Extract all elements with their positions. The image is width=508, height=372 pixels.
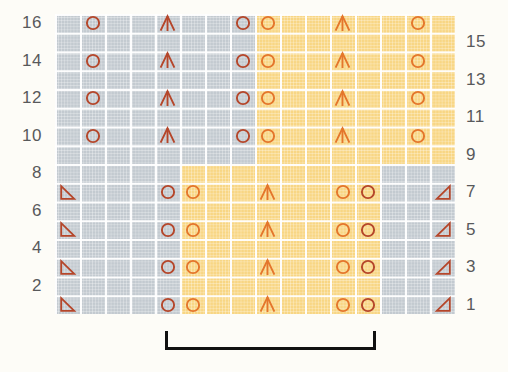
row-label-left-10: 10 bbox=[8, 127, 42, 144]
row-label-right-11: 11 bbox=[466, 108, 500, 125]
color-block-lower-left-gray bbox=[55, 164, 180, 314]
row-label-left-16: 16 bbox=[8, 14, 42, 31]
chart-canvas: 161412108642 15131197531 bbox=[0, 0, 508, 372]
row-label-left-4: 4 bbox=[8, 239, 42, 256]
row-label-right-13: 13 bbox=[466, 71, 500, 88]
row-label-left-8: 8 bbox=[8, 164, 42, 181]
row-label-left-2: 2 bbox=[8, 277, 42, 294]
row-label-left-14: 14 bbox=[8, 52, 42, 69]
row-label-right-15: 15 bbox=[466, 33, 500, 50]
row-label-right-3: 3 bbox=[466, 258, 500, 275]
pattern-repeat-bracket bbox=[165, 331, 376, 350]
color-block-lower-mid-yellow bbox=[180, 164, 380, 314]
row-label-left-12: 12 bbox=[8, 89, 42, 106]
knitting-chart-grid[interactable] bbox=[55, 14, 455, 314]
row-label-right-7: 7 bbox=[466, 183, 500, 200]
color-block-lower-right-gray bbox=[380, 164, 455, 314]
row-label-left-6: 6 bbox=[8, 202, 42, 219]
row-label-right-1: 1 bbox=[466, 296, 500, 313]
color-block-upper-left-gray bbox=[55, 14, 255, 164]
color-block-upper-right-yellow bbox=[255, 14, 455, 164]
row-label-right-9: 9 bbox=[466, 146, 500, 163]
row-label-right-5: 5 bbox=[466, 221, 500, 238]
